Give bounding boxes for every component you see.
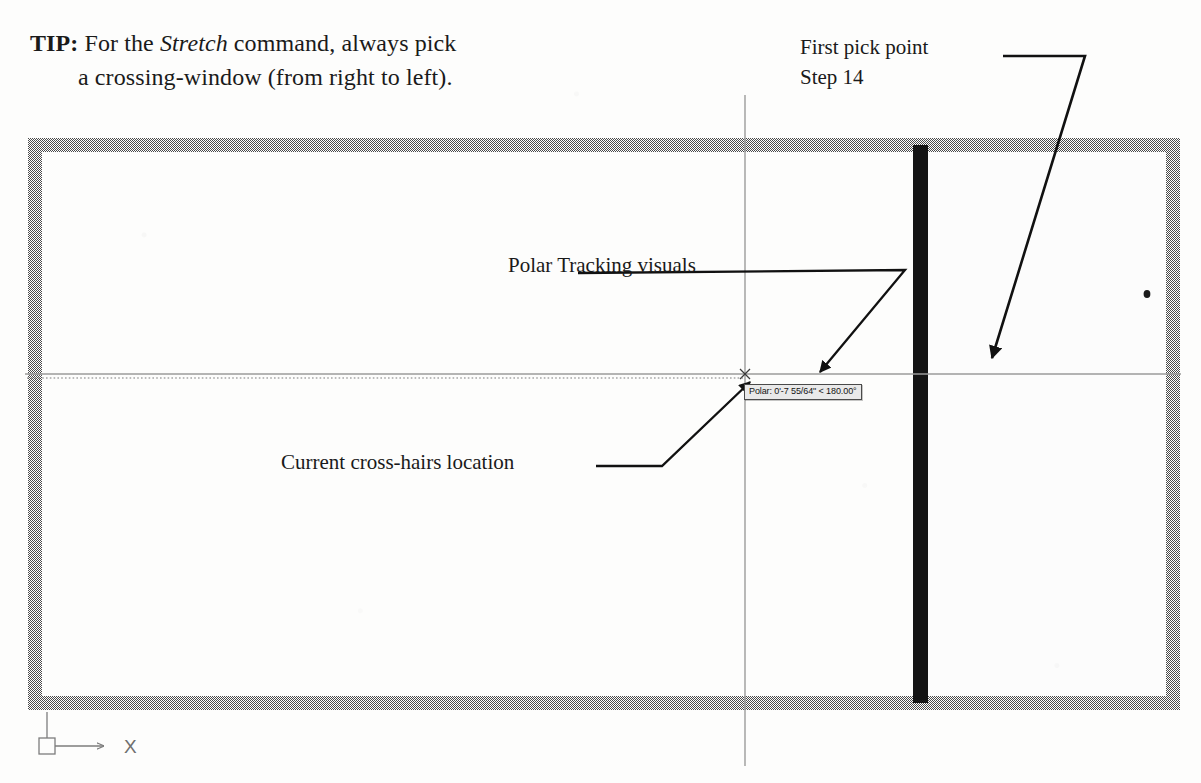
stretch-zone-shading: [928, 152, 1166, 696]
callout-first-pick-line1: First pick point: [800, 32, 928, 62]
wall-top[interactable]: [28, 138, 1180, 152]
cad-drawing-canvas[interactable]: [0, 0, 1201, 783]
ucs-origin-box: [39, 738, 55, 754]
tip-command-name: Stretch: [160, 30, 228, 56]
leader-crosshairs-location: [596, 382, 750, 466]
tip-paragraph: TIP: For the Stretch command, always pic…: [30, 26, 650, 94]
ucs-x-axis-label: X: [124, 736, 137, 758]
stretch-member-bar[interactable]: [913, 145, 928, 703]
wall-bottom[interactable]: [28, 696, 1180, 710]
callout-polar-tracking: Polar Tracking visuals: [508, 250, 696, 280]
tip-label: TIP:: [30, 30, 78, 56]
callout-first-pick-point: First pick point Step 14: [800, 32, 928, 93]
callout-first-pick-line2: Step 14: [800, 62, 928, 92]
polar-tracking-tooltip: Polar: 0'-7 55/64" < 180.00°: [744, 384, 862, 400]
tip-text-after: command, always pick: [228, 30, 457, 56]
tip-text-before: For the: [78, 30, 160, 56]
leader-polar-tracking: [578, 270, 905, 372]
callout-crosshairs-location: Current cross-hairs location: [281, 447, 514, 477]
wall-right[interactable]: [1166, 138, 1180, 710]
tip-line-two: a crossing-window (from right to left).: [30, 60, 650, 94]
wall-left[interactable]: [28, 138, 42, 710]
ucs-icon: [39, 712, 104, 754]
node-dot[interactable]: [1144, 290, 1151, 298]
page-root: TIP: For the Stretch command, always pic…: [0, 0, 1201, 783]
